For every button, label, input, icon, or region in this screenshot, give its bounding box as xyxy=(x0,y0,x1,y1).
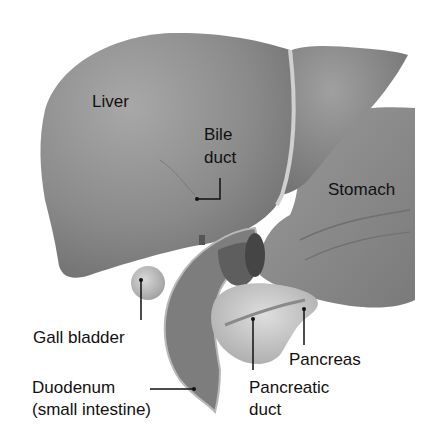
label-pancreatic-duct-line1: Pancreatic xyxy=(249,378,329,398)
bile-duct-tube xyxy=(199,235,205,245)
label-bile-duct-line1: Bile xyxy=(204,125,232,145)
digestive-organs-illustration xyxy=(0,0,436,442)
label-stomach: Stomach xyxy=(328,180,395,200)
label-bile-duct-line2: duct xyxy=(204,148,236,168)
gall-bladder xyxy=(131,266,165,300)
label-pancreatic-duct-line2: duct xyxy=(249,400,281,420)
label-gall-bladder: Gall bladder xyxy=(33,328,125,348)
label-duodenum-line1: Duodenum xyxy=(32,378,115,398)
label-pancreas: Pancreas xyxy=(289,350,361,370)
label-duodenum-line2: (small intestine) xyxy=(32,400,151,420)
label-liver: Liver xyxy=(92,92,129,112)
